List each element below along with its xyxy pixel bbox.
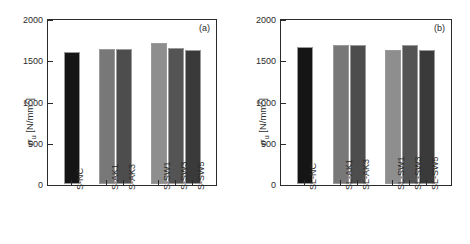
y-tick-label-b-1000: 1000 bbox=[236, 98, 276, 108]
y-tick-b-0 bbox=[281, 185, 286, 186]
y-tick-a-2000 bbox=[48, 20, 53, 21]
y-tick-label-a-2000: 2000 bbox=[3, 15, 43, 25]
plot-area-a: (a) bbox=[47, 19, 217, 186]
x-tick-sl-ak1 bbox=[340, 180, 341, 185]
x-tick-s-sw1 bbox=[158, 180, 159, 185]
x-tick-sl-sw1 bbox=[392, 180, 393, 185]
y-tick-a-1500 bbox=[48, 61, 53, 62]
x-tick-label-sl-nc: SL-NC bbox=[308, 163, 318, 190]
x-tick-s-nc bbox=[71, 180, 72, 185]
x-tick-label-sl-sw1: SL-SW1 bbox=[396, 156, 406, 190]
x-tick-sl-sw3 bbox=[409, 180, 410, 185]
y-tick-label-b-0: 0 bbox=[236, 180, 276, 190]
x-tick-sl-sw5 bbox=[426, 180, 427, 185]
y-tick-b-1000 bbox=[281, 103, 286, 104]
figure-root: σu [N/mm2] (a) 0500100015002000S-NCS-AK1… bbox=[0, 0, 470, 244]
x-tick-s-sw5 bbox=[192, 180, 193, 185]
x-tick-label-s-sw1: S-SW1 bbox=[162, 161, 172, 190]
x-tick-label-s-sw5: S-SW5 bbox=[196, 161, 206, 190]
y-tick-label-a-0: 0 bbox=[3, 180, 43, 190]
y-tick-label-b-2000: 2000 bbox=[236, 15, 276, 25]
bar-series-a bbox=[49, 21, 215, 184]
x-tick-label-s-ak1: S-AK1 bbox=[110, 164, 120, 190]
x-tick-label-sl-ak3: SL-AK3 bbox=[361, 159, 371, 190]
y-tick-b-1500 bbox=[281, 61, 286, 62]
y-tick-label-a-500: 500 bbox=[3, 139, 43, 149]
y-tick-label-b-500: 500 bbox=[236, 139, 276, 149]
x-tick-s-ak1 bbox=[106, 180, 107, 185]
y-tick-label-a-1500: 1500 bbox=[3, 56, 43, 66]
x-tick-label-s-sw3: S-SW3 bbox=[179, 161, 189, 190]
x-tick-s-sw3 bbox=[175, 180, 176, 185]
x-tick-label-s-ak3: S-AK3 bbox=[127, 164, 137, 190]
x-tick-s-ak3 bbox=[123, 180, 124, 185]
x-tick-label-sl-ak1: SL-AK1 bbox=[344, 159, 354, 190]
panel-b: σu [N/mm2] (b) 0500100015002000SL-NCSL-A… bbox=[235, 0, 470, 244]
panel-a: σu [N/mm2] (a) 0500100015002000S-NCS-AK1… bbox=[0, 0, 235, 244]
y-tick-a-1000 bbox=[48, 103, 53, 104]
x-tick-label-sl-sw5: SL-SW5 bbox=[430, 156, 440, 190]
x-tick-sl-ak3 bbox=[357, 180, 358, 185]
y-tick-b-500 bbox=[281, 144, 286, 145]
y-tick-a-500 bbox=[48, 144, 53, 145]
x-tick-label-s-nc: S-NC bbox=[75, 168, 85, 190]
unit-open-a: [N/mm bbox=[24, 105, 35, 136]
bar-s-nc bbox=[64, 52, 80, 184]
unit-open-b: [N/mm bbox=[257, 105, 268, 136]
y-tick-a-0 bbox=[48, 185, 53, 186]
y-tick-label-b-1500: 1500 bbox=[236, 56, 276, 66]
x-tick-label-sl-sw3: SL-SW3 bbox=[413, 156, 423, 190]
y-tick-label-a-1000: 1000 bbox=[3, 98, 43, 108]
y-tick-b-2000 bbox=[281, 20, 286, 21]
x-tick-sl-nc bbox=[304, 180, 305, 185]
